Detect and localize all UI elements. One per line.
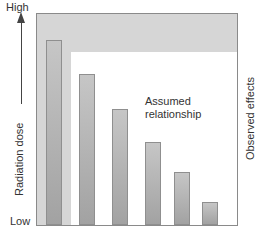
plot-area: Assumed relationship xyxy=(36,13,238,226)
y-axis-label: Radiation dose xyxy=(13,123,25,196)
bar-5 xyxy=(174,172,190,225)
bar-1 xyxy=(46,40,62,225)
bar-2 xyxy=(79,74,95,225)
bar-4 xyxy=(145,142,161,225)
annotation-line-1: Assumed xyxy=(145,95,201,108)
y-low-label: Low xyxy=(10,215,30,227)
bar-6 xyxy=(202,202,218,225)
bar-3 xyxy=(112,109,128,225)
observed-effects-label: Observed effects xyxy=(244,77,256,160)
annotation-line-2: relationship xyxy=(145,108,201,121)
assumed-relationship-label: Assumed relationship xyxy=(145,95,201,121)
